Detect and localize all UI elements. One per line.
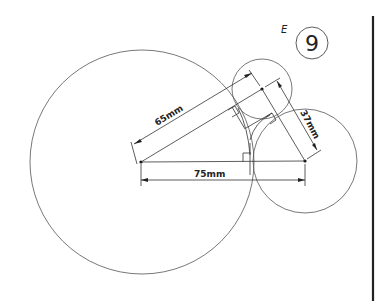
perp-line-large-small [232,107,245,129]
dim-label-75: 75mm [194,169,225,179]
section-letter: E [281,24,288,35]
geometry-drawing: 75mm 65mm 37mm E 9 [0,0,383,301]
problem-number: 9 [305,31,319,56]
ext-line-65-left [131,142,137,164]
arrow-37-top-icon [277,81,282,88]
dim-label-65: 65mm [153,103,185,128]
dim-line-65 [134,73,252,144]
arrow-75-right-icon [298,178,305,182]
small-right-center-line [262,89,305,161]
base-center-line [141,161,305,162]
arrow-37-bottom-icon [312,143,317,150]
arrow-75-left-icon [141,178,148,182]
ext-line-37-bottom [307,150,321,159]
ext-line-65-right [249,70,260,86]
